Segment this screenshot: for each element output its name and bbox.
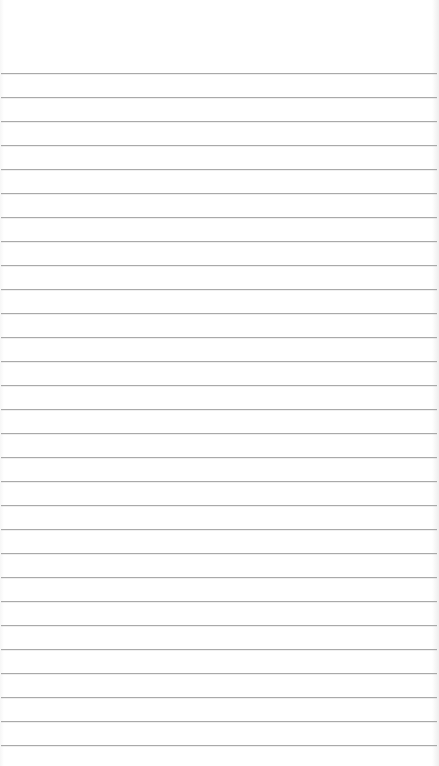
ruled-line (1, 433, 437, 434)
ruled-line (1, 73, 437, 74)
ruled-line (1, 313, 437, 314)
ruled-line (1, 289, 437, 290)
ruled-line (1, 265, 437, 266)
ruled-line (1, 481, 437, 482)
ruled-line (1, 457, 437, 458)
ruled-line (1, 385, 437, 386)
ruled-line (1, 625, 437, 626)
lined-paper-sheet (0, 0, 439, 766)
ruled-line (1, 529, 437, 530)
ruled-line (1, 121, 437, 122)
ruled-line (1, 505, 437, 506)
ruled-line (1, 409, 437, 410)
ruled-line (1, 217, 437, 218)
ruled-line (1, 361, 437, 362)
ruled-line (1, 553, 437, 554)
ruled-line (1, 745, 437, 746)
ruled-line (1, 241, 437, 242)
ruled-line (1, 577, 437, 578)
ruled-line (1, 145, 437, 146)
ruled-line (1, 649, 437, 650)
ruled-line (1, 697, 437, 698)
ruled-line (1, 721, 437, 722)
ruled-line (1, 193, 437, 194)
ruled-line (1, 169, 437, 170)
ruled-line (1, 97, 437, 98)
ruled-line (1, 601, 437, 602)
ruled-line (1, 673, 437, 674)
ruled-line (1, 337, 437, 338)
